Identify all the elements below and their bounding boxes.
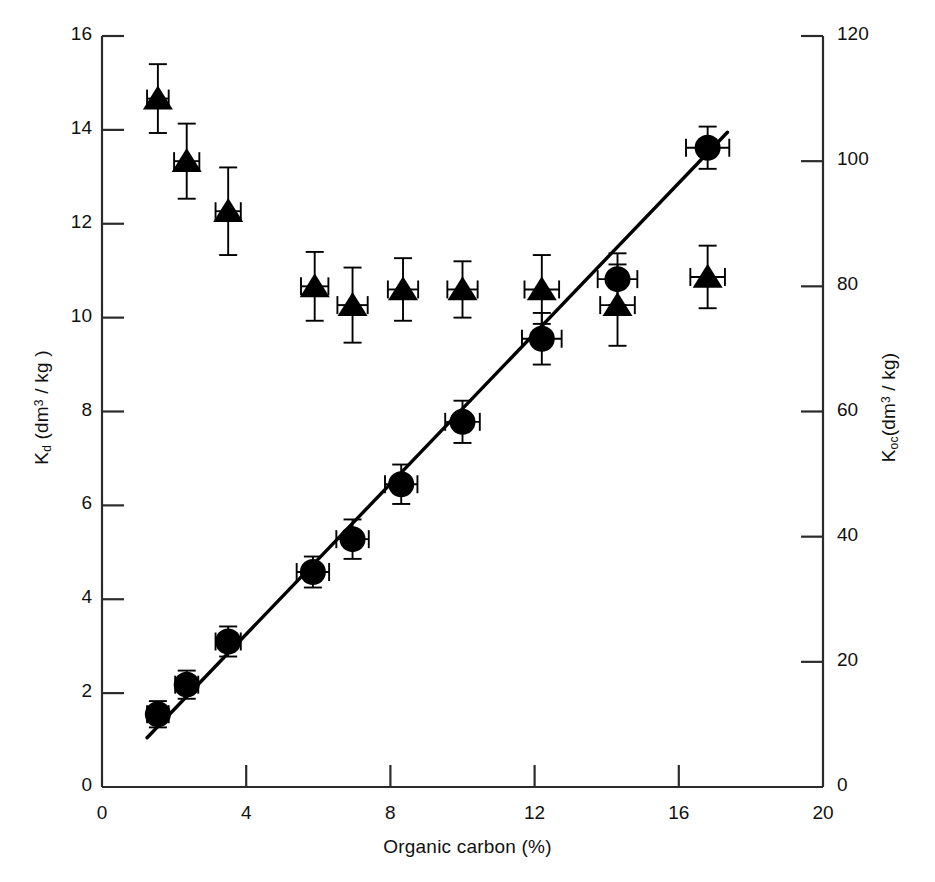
data-point-triangle <box>527 276 557 300</box>
y-axis-right-tick-label-0: 0 <box>837 774 893 796</box>
y-right-unit-b: / kg) <box>878 353 899 396</box>
data-point-circle <box>174 672 200 698</box>
x-axis-tick-label-16: 16 <box>654 802 704 824</box>
y-right-symbol: K <box>878 449 899 462</box>
y-axis-left-tick-label-6: 6 <box>46 492 92 514</box>
y-axis-right-tick-label-80: 80 <box>837 273 893 295</box>
y-axis-left-tick-label-2: 2 <box>46 680 92 702</box>
x-axis-title: Organic carbon (%) <box>0 836 935 858</box>
y-left-unit-b: / kg ) <box>31 350 52 399</box>
y-left-subscript: d <box>40 445 54 452</box>
data-point-triangle <box>448 276 478 300</box>
y-axis-left-tick-label-0: 0 <box>46 774 92 796</box>
x-axis-tick-label-20: 20 <box>798 802 848 824</box>
x-axis-tick-label-8: 8 <box>365 802 415 824</box>
data-point-circle <box>145 701 171 727</box>
y-axis-right-tick-label-20: 20 <box>837 649 893 671</box>
data-point-triangle <box>213 198 243 222</box>
data-point-triangle <box>693 264 723 288</box>
x-axis-tick-label-12: 12 <box>510 802 560 824</box>
chart-plot-area <box>0 0 935 882</box>
y-axis-right-tick-label-100: 100 <box>837 148 893 170</box>
data-point-triangle <box>338 292 368 316</box>
x-axis-title-text: Organic carbon (%) <box>383 836 551 857</box>
series-koc <box>143 64 725 346</box>
y-axis-left-tick-label-16: 16 <box>46 23 92 45</box>
data-point-circle <box>340 526 366 552</box>
y-axis-left-tick-label-12: 12 <box>46 211 92 233</box>
y-axis-left-tick-label-14: 14 <box>46 117 92 139</box>
data-point-circle <box>695 135 721 161</box>
data-point-circle <box>300 559 326 585</box>
y-axis-right-tick-label-120: 120 <box>837 23 893 45</box>
y-axis-left-tick-label-8: 8 <box>46 399 92 421</box>
data-point-triangle <box>388 276 418 300</box>
data-point-circle <box>388 471 414 497</box>
data-point-circle <box>450 409 476 435</box>
y-left-symbol: K <box>31 452 52 465</box>
data-point-circle <box>215 628 241 654</box>
figure-container: Organic carbon (%) Kd (dm3 / kg ) Koc(dm… <box>0 0 935 882</box>
y-axis-right-tick-label-60: 60 <box>837 399 893 421</box>
y-left-superscript: 3 <box>32 399 46 406</box>
data-point-triangle <box>603 292 633 316</box>
x-axis-tick-label-4: 4 <box>221 802 271 824</box>
y-axis-right-tick-label-40: 40 <box>837 524 893 546</box>
x-axis-tick-label-0: 0 <box>77 802 127 824</box>
y-right-subscript: oc <box>887 436 901 449</box>
data-point-triangle <box>172 148 202 172</box>
y-axis-left-tick-label-4: 4 <box>46 586 92 608</box>
data-point-circle <box>529 326 555 352</box>
data-point-triangle <box>300 273 330 297</box>
y-axis-left-tick-label-10: 10 <box>46 305 92 327</box>
